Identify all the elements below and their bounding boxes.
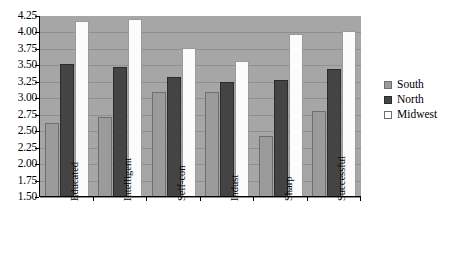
x-axis-category-label-text: Educated: [70, 162, 81, 201]
legend-item-north: North: [384, 93, 454, 107]
legend-item-south: South: [384, 78, 454, 92]
y-axis-tick-mark: [35, 181, 39, 182]
x-axis-tick-mark: [200, 197, 201, 201]
y-axis-tick-label: 1.75: [0, 175, 37, 187]
y-axis-tick-label: 3.50: [0, 59, 37, 71]
x-axis-category-label-text: Successful: [337, 156, 348, 201]
x-axis-tick-mark: [360, 197, 361, 201]
y-axis-tick-mark: [35, 32, 39, 33]
bar-chart: 4.254.003.753.503.253.002.752.502.252.00…: [0, 0, 455, 258]
x-axis-category-label-text: Sharp: [284, 177, 295, 202]
bar-south-sharp: [259, 136, 273, 197]
y-axis-tick-mark: [35, 49, 39, 50]
bar-south-self-con: [152, 92, 166, 197]
y-axis-tick-mark: [35, 115, 39, 116]
y-axis-tick-label: 3.25: [0, 76, 37, 88]
legend-item-midwest: Midwest: [384, 108, 454, 122]
x-axis-tick-mark: [253, 197, 254, 201]
bar-south-educated: [45, 123, 59, 197]
gridline: [40, 197, 361, 198]
legend-label-south: South: [397, 79, 424, 91]
y-axis-tick-mark: [35, 16, 39, 17]
bar-south-intelligent: [98, 117, 112, 197]
x-axis-tick-mark: [307, 197, 308, 201]
y-axis-tick-label: 2.50: [0, 125, 37, 137]
x-axis-category-label-text: Intelligent: [123, 158, 134, 201]
x-axis-tick-mark: [146, 197, 147, 201]
x-axis-category-label-text: Indust: [230, 175, 241, 201]
y-axis-tick-label: 2.75: [0, 109, 37, 121]
y-axis-line: [39, 16, 40, 197]
y-axis-tick-labels: 4.254.003.753.503.253.002.752.502.252.00…: [0, 0, 37, 258]
x-axis-category-labels: EducatedIntelligentSelf-conIndustSharpSu…: [39, 199, 360, 258]
y-axis-tick-mark: [35, 131, 39, 132]
legend: SouthNorthMidwest: [384, 78, 454, 123]
bar-south-indust: [205, 92, 219, 197]
legend-label-midwest: Midwest: [397, 109, 437, 121]
legend-swatch-south: [384, 81, 392, 89]
bar-midwest-sharp: [289, 34, 303, 197]
y-axis-tick-label: 4.00: [0, 26, 37, 38]
x-axis-tick-mark: [93, 197, 94, 201]
y-axis-tick-mark: [35, 65, 39, 66]
y-axis-tick-label: 3.75: [0, 43, 37, 55]
plot-area: [39, 16, 361, 197]
y-axis-tick-label: 2.25: [0, 142, 37, 154]
y-axis-tick-label: 4.25: [0, 10, 37, 22]
legend-label-north: North: [397, 94, 424, 106]
y-axis-tick-mark: [35, 148, 39, 149]
x-axis-category-label-text: Self-con: [177, 165, 188, 201]
y-axis-tick-mark: [35, 197, 39, 198]
legend-swatch-midwest: [384, 111, 392, 119]
y-axis-tick-label: 1.50: [0, 191, 37, 203]
y-axis-tick-label: 3.00: [0, 92, 37, 104]
y-axis-tick-label: 2.00: [0, 158, 37, 170]
bar-south-successful: [312, 111, 326, 197]
y-axis-tick-mark: [35, 98, 39, 99]
y-axis-tick-mark: [35, 164, 39, 165]
y-axis-tick-mark: [35, 82, 39, 83]
legend-swatch-north: [384, 96, 392, 104]
